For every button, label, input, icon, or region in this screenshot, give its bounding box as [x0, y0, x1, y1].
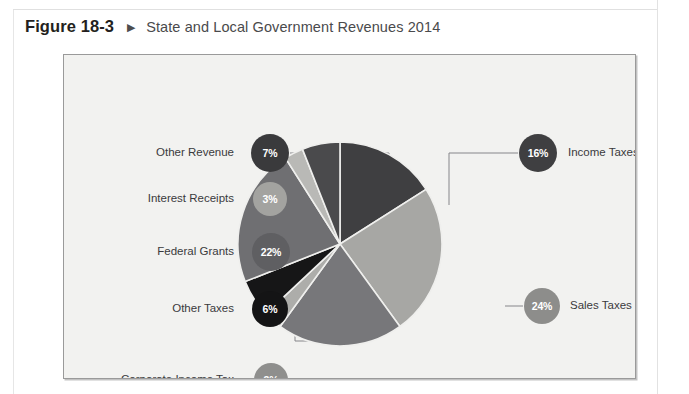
chart-frame: 7%Other Revenue3%Interest Receipts22%Fed… [63, 54, 636, 379]
callout-label-income-taxes: Income Taxes [568, 147, 636, 159]
callout-badge-sales-taxes[interactable]: 24% [524, 288, 560, 324]
pie-chart-svg [64, 55, 635, 378]
callout-label-sales-taxes: Sales Taxes [570, 300, 632, 312]
callout-label-federal-grants: Federal Grants [157, 246, 234, 258]
callout-badge-interest-receipts[interactable]: 3% [253, 182, 287, 216]
callout-label-interest-receipts: Interest Receipts [148, 193, 234, 205]
callout-badge-other-revenue[interactable]: 7% [251, 134, 289, 172]
callout-connector [449, 153, 518, 205]
callout-label-other-revenue: Other Revenue [156, 147, 234, 159]
figure-number: Figure 18-3 [25, 17, 114, 36]
callout-badge-other-taxes[interactable]: 6% [252, 291, 288, 327]
page-gutter-line-right [657, 0, 658, 394]
page-gutter-line-left [13, 10, 14, 394]
figure-title: State and Local Government Revenues 2014 [146, 19, 440, 35]
callout-badge-federal-grants[interactable]: 22% [252, 233, 290, 271]
callout-label-corporate-income-tax: Corporate Income Tax [121, 374, 234, 379]
pie-chart: 7%Other Revenue3%Interest Receipts22%Fed… [64, 55, 635, 378]
callout-badge-income-taxes[interactable]: 16% [519, 134, 557, 172]
figure-header: Figure 18-3 ▶ State and Local Government… [25, 17, 440, 36]
triangle-right-icon: ▶ [127, 21, 135, 34]
callout-label-other-taxes: Other Taxes [172, 303, 234, 315]
page-top-rule [13, 9, 657, 10]
